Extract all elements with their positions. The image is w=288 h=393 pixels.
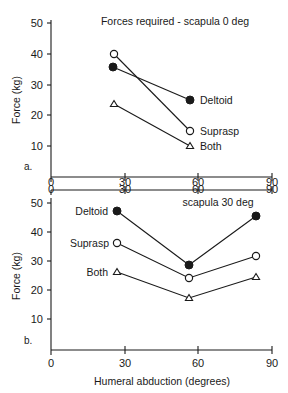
panel-b-ytick-40: 40: [31, 226, 43, 238]
panel-b-label-deltoid: Deltoid: [75, 205, 108, 217]
forces-required-figure: 50 40 30 20 10 0 30 60 90 Force (kg): [0, 0, 288, 393]
panel-a-suprasp-point-30: [110, 50, 117, 57]
panel-b-y-ticks: [47, 203, 51, 319]
panel-a-letter: a.: [24, 161, 32, 172]
panel-b-title: scapula 30 deg: [182, 196, 253, 208]
panel-b-suprasp-point-28: [113, 239, 120, 246]
panel-b-x-tick-labels: 0 30 60 90: [48, 357, 278, 369]
panel-a-title: Forces required - scapula 0 deg: [101, 15, 249, 27]
panel-a-y-axis-title: Force (kg): [10, 76, 22, 124]
panel-b-ytick-50: 50: [31, 197, 43, 209]
panel-a-x-tick-labels: 0 30 60 90: [48, 183, 278, 195]
panel-a-ytick-20: 20: [31, 109, 43, 121]
panel-b-label-both: Both: [86, 266, 108, 278]
panel-b-deltoid-line: [117, 211, 256, 265]
panel-a-deltoid-point-60: [186, 96, 194, 104]
panel-b-letter: b.: [24, 335, 32, 346]
panel-b-ytick-10: 10: [31, 313, 43, 325]
panel-b-top-xtick-60: 60: [192, 176, 204, 188]
panel-b-y-tick-labels: 50 40 30 20 10: [31, 197, 43, 325]
panel-b-suprasp-line: [117, 243, 256, 278]
panel-a-both-point-30: [110, 101, 117, 107]
panel-b-series-deltoid: [113, 207, 260, 269]
panel-a-label-deltoid: Deltoid: [200, 94, 233, 106]
panel-b-deltoid-point-28: [113, 207, 121, 215]
panel-b-both-point-87: [252, 274, 259, 280]
panel-a-ytick-50: 50: [31, 17, 43, 29]
panel-b-both-point-28: [113, 269, 120, 275]
panel-b-xtick-30: 30: [119, 357, 131, 369]
panel-b-deltoid-point-59: [185, 261, 193, 269]
panel-b-xtick-90: 90: [266, 357, 278, 369]
panel-b-y-axis-title: Force (kg): [10, 252, 22, 300]
panel-b-series-suprasp: [113, 239, 259, 281]
panel-b-top-xtick-90: 90: [266, 176, 278, 188]
figure-container: 50 40 30 20 10 0 30 60 90 Force (kg): [0, 0, 288, 393]
panel-a-deltoid-point-30: [109, 63, 117, 71]
panel-b-top-xtick-30: 30: [119, 176, 131, 188]
panel-b-suprasp-point-87: [252, 252, 259, 259]
panel-b-top-xtick-0: 0: [48, 176, 54, 188]
panel-a: 50 40 30 20 10 0 30 60 90 Force (kg): [10, 15, 278, 195]
panel-b-suprasp-point-59: [185, 274, 192, 281]
panel-b-ytick-30: 30: [31, 255, 43, 267]
panel-a-y-ticks: [47, 23, 51, 146]
panel-a-deltoid-line: [113, 67, 190, 100]
panel-a-series-deltoid: [109, 63, 194, 104]
panel-a-suprasp-line: [114, 54, 190, 131]
panel-b-label-suprasp: Suprasp: [70, 237, 109, 249]
panel-b-x-axis-title: Humeral abduction (degrees): [94, 375, 230, 387]
panel-b-xtick-60: 60: [192, 357, 204, 369]
panel-a-y-tick-labels: 50 40 30 20 10: [31, 17, 43, 152]
panel-a-ytick-10: 10: [31, 140, 43, 152]
panel-a-suprasp-point-60: [186, 127, 193, 134]
panel-a-series-both: [110, 101, 193, 149]
panel-b: 0 30 60 90 scapula 30 deg 50 40 30: [10, 176, 278, 387]
panel-a-ytick-40: 40: [31, 48, 43, 60]
panel-a-label-suprasp: Suprasp: [200, 125, 239, 137]
panel-a-both-point-60: [186, 143, 193, 149]
panel-b-top-tick-labels: 0 30 60 90: [48, 176, 278, 188]
panel-a-label-both: Both: [200, 140, 222, 152]
panel-b-ytick-20: 20: [31, 284, 43, 296]
panel-a-both-line: [114, 104, 190, 146]
panel-b-xtick-0: 0: [48, 357, 54, 369]
panel-a-series-suprasp: [110, 50, 193, 134]
panel-b-series-both: [113, 269, 259, 301]
panel-b-deltoid-point-87: [252, 212, 260, 220]
panel-a-ytick-30: 30: [31, 79, 43, 91]
